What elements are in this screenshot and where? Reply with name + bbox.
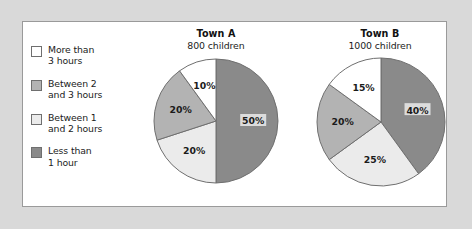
- pie-svg-town-b: 40%25%20%15%: [295, 53, 465, 188]
- legend-item-more-than-3-hours: More than 3 hours: [31, 44, 139, 67]
- legend-swatch-less-than-1-hour: [31, 147, 42, 158]
- pie-slice-label: 10%: [193, 80, 216, 91]
- pie-graphic-town-a: 50%20%20%10%: [131, 53, 301, 189]
- pie-slice-label: 20%: [183, 145, 206, 156]
- chart-panel: More than 3 hours Between 2 and 3 hours …: [22, 21, 447, 207]
- pie-subtitle-town-b: 1000 children: [295, 40, 465, 51]
- legend-swatch-between-1-and-2-hours: [31, 114, 42, 125]
- legend-swatch-more-than-3-hours: [31, 46, 42, 57]
- pie-slice-label: 50%: [242, 115, 265, 126]
- legend-swatch-between-2-and-3-hours: [31, 80, 42, 91]
- pie-slice-label: 25%: [364, 154, 387, 165]
- legend-label-more-than-3-hours: More than 3 hours: [48, 44, 94, 67]
- pie-slice-label: 20%: [331, 116, 354, 127]
- pie-slice-label: 15%: [352, 82, 375, 93]
- legend-item-between-2-and-3-hours: Between 2 and 3 hours: [31, 78, 139, 101]
- pie-title-town-a: Town A: [131, 28, 301, 39]
- legend-item-between-1-and-2-hours: Between 1 and 2 hours: [31, 112, 139, 135]
- figure-canvas: More than 3 hours Between 2 and 3 hours …: [0, 0, 472, 229]
- pie-graphic-town-b: 40%25%20%15%: [295, 53, 465, 192]
- pie-slice-label: 40%: [406, 105, 429, 116]
- pie-chart-town-b: Town B 1000 children 40%25%20%15%: [295, 22, 465, 192]
- legend-label-between-2-and-3-hours: Between 2 and 3 hours: [48, 78, 102, 101]
- pie-svg-town-a: 50%20%20%10%: [131, 53, 301, 185]
- pie-subtitle-town-a: 800 children: [131, 40, 301, 51]
- legend-label-less-than-1-hour: Less than 1 hour: [48, 145, 92, 168]
- pie-title-town-b: Town B: [295, 28, 465, 39]
- pie-chart-town-a: Town A 800 children 50%20%20%10%: [131, 22, 301, 189]
- legend: More than 3 hours Between 2 and 3 hours …: [31, 44, 139, 179]
- legend-label-between-1-and-2-hours: Between 1 and 2 hours: [48, 112, 102, 135]
- pie-slice-label: 20%: [169, 104, 192, 115]
- legend-item-less-than-1-hour: Less than 1 hour: [31, 145, 139, 168]
